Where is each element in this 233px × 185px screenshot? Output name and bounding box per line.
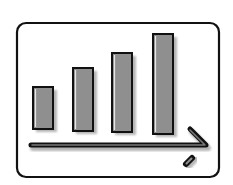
bar-chart-icon bbox=[0, 0, 233, 185]
pill-mark-icon bbox=[186, 158, 195, 166]
